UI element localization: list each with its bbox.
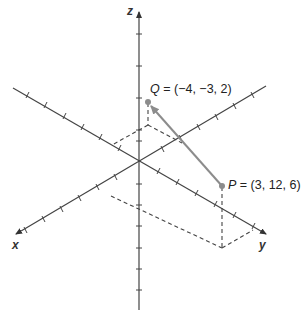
point-p-coords: (3, 12, 6) — [251, 178, 301, 192]
p-projection-lines — [111, 187, 253, 248]
point-p-sep: = — [236, 178, 250, 192]
point-p-label: P = (3, 12, 6) — [228, 178, 301, 192]
x-axis-label: x — [12, 238, 19, 252]
y-axis-label: y — [259, 238, 266, 252]
point-q-sep: = — [160, 82, 174, 96]
point-q-coords: (−4, −3, 2) — [174, 82, 232, 96]
z-axis-label: z — [127, 4, 133, 18]
point-q — [145, 99, 151, 105]
coordinate-diagram — [0, 0, 303, 316]
q-projection-lines — [112, 103, 182, 145]
point-q-name: Q — [150, 82, 160, 96]
point-p — [219, 183, 225, 189]
point-q-label: Q = (−4, −3, 2) — [150, 82, 232, 96]
